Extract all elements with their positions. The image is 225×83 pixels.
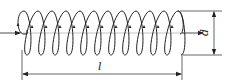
length-label: l [98, 60, 102, 73]
current-direction-arrows [17, 23, 174, 28]
solenoid-diagram: l d [0, 0, 225, 83]
diameter-label: d [198, 29, 211, 36]
length-dimension [22, 50, 182, 80]
